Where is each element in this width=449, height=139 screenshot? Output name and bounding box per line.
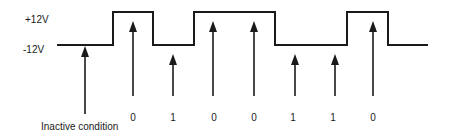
bit-label: 0 <box>370 113 376 123</box>
bit-label: 0 <box>130 113 136 123</box>
arrow-icon <box>209 21 217 96</box>
arrow-icon <box>169 54 177 96</box>
arrow-icon <box>331 54 339 96</box>
bit-label: 0 <box>251 113 257 123</box>
timing-diagram <box>0 0 449 139</box>
arrow-icon <box>291 54 299 96</box>
arrow-icon <box>129 21 137 96</box>
high-level-label: +12V <box>25 15 49 25</box>
bit-label: 1 <box>170 113 176 123</box>
sample-arrows <box>81 21 377 114</box>
inactive-condition-label: Inactive condition <box>41 122 118 132</box>
arrow-icon <box>81 46 89 114</box>
low-level-label: -12V <box>23 45 44 55</box>
bit-label: 1 <box>290 113 296 123</box>
bit-label: 1 <box>330 113 336 123</box>
bit-label: 0 <box>211 113 217 123</box>
arrow-icon <box>369 21 377 96</box>
arrow-icon <box>250 21 258 96</box>
